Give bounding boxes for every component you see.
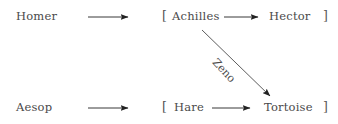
node-homer: Homer bbox=[16, 11, 57, 23]
group-close-bracket: ] bbox=[323, 10, 328, 23]
node-achilles: Achilles bbox=[172, 11, 220, 23]
commutative-diagram: Homer [ Achilles Hector ] Zeno Aesop [ H… bbox=[0, 0, 338, 124]
node-aesop: Aesop bbox=[16, 102, 52, 114]
group-open-bracket: [ bbox=[162, 10, 167, 23]
node-hare: Hare bbox=[174, 102, 204, 114]
group-close-bracket: ] bbox=[323, 101, 328, 114]
group-open-bracket: [ bbox=[162, 101, 167, 114]
node-hector: Hector bbox=[269, 11, 311, 23]
node-tortoise: Tortoise bbox=[264, 102, 313, 114]
